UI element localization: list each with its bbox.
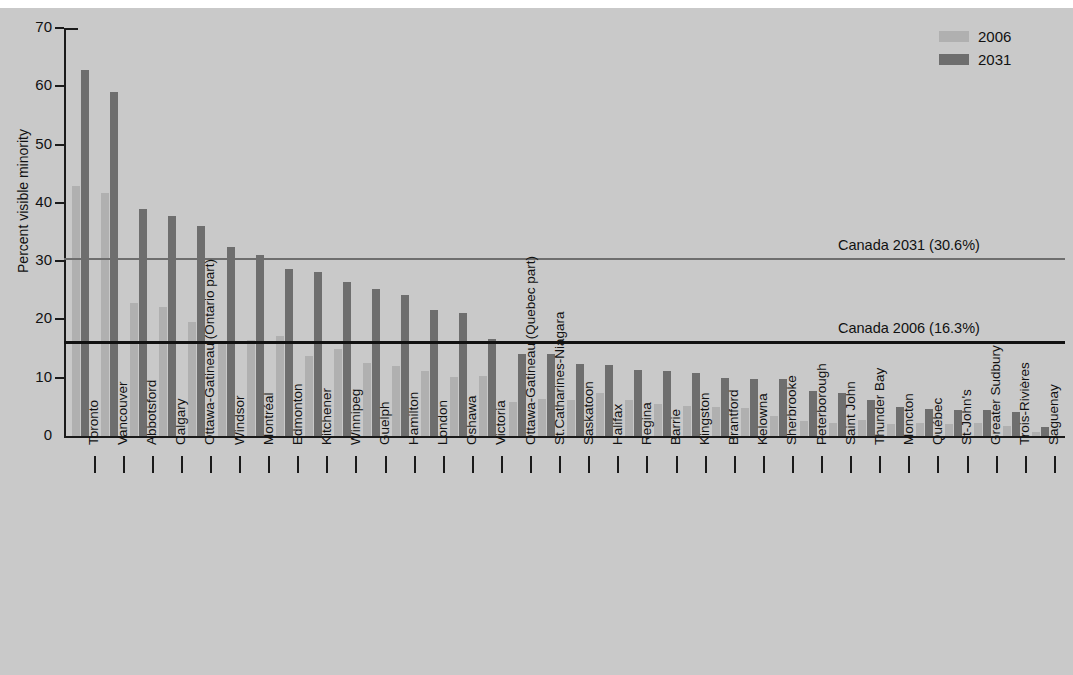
chart-figure: Percent visible minority 010203040506070… [0, 8, 1073, 675]
bar-2006 [363, 363, 371, 436]
category-label: Calgary [173, 398, 188, 445]
legend-swatch-2031-icon [939, 54, 969, 65]
category-label: Abbotsford [144, 380, 159, 445]
y-tick-70 [55, 27, 64, 29]
category-label: Edmonton [290, 383, 305, 445]
category-label: Peterborough [814, 363, 829, 445]
legend-swatch-2006-icon [939, 31, 969, 42]
bar-group [276, 28, 294, 436]
y-tick-10 [55, 377, 64, 379]
category-label: Ottawa-Gatineau (Quebec part) [523, 256, 538, 445]
category-label: Victoria [493, 400, 508, 445]
bar-group [247, 28, 265, 436]
category-label: Kingston [697, 392, 712, 445]
bar-group [218, 28, 236, 436]
category-label: Montréal [261, 392, 276, 445]
bar-group [945, 28, 963, 436]
category-label: Sherbrooke [784, 375, 799, 445]
chart-legend: 2006 2031 [939, 26, 1059, 72]
bar-group [305, 28, 323, 436]
category-label: Barrie [668, 409, 683, 445]
bar-2006 [101, 193, 109, 436]
bar-2031 [81, 70, 89, 436]
bar-2006 [130, 303, 138, 436]
bar-2006 [683, 406, 691, 436]
bar-2006 [945, 424, 953, 436]
bar-group [741, 28, 759, 436]
bar-group [334, 28, 352, 436]
category-label: Kitchener [319, 388, 334, 445]
category-label: Ottawa-Gatineau (Ontario part) [202, 259, 217, 445]
legend-label-2031: 2031 [978, 51, 1011, 68]
category-label: Trois-Rivières [1017, 362, 1032, 445]
bar-group [712, 28, 730, 436]
category-labels: TorontoVancouverAbbotsfordCalgaryOttawa-… [0, 445, 1073, 675]
category-label: Saguenay [1046, 384, 1061, 445]
category-label: Vancouver [115, 381, 130, 445]
bar-group [159, 28, 177, 436]
bar-2006 [712, 407, 720, 436]
legend-item-2006: 2006 [939, 26, 1059, 46]
y-tick-30 [55, 260, 64, 262]
category-label: Guelph [377, 401, 392, 445]
category-label: Halifax [610, 404, 625, 445]
bar-2006 [276, 336, 284, 436]
bar-group [567, 28, 585, 436]
bar-group [887, 28, 905, 436]
bar-2006 [479, 376, 487, 436]
category-label: Greater Sudbury [988, 345, 1003, 445]
category-label: Windsor [232, 395, 247, 445]
category-label: Hamilton [406, 392, 421, 445]
bar-group [683, 28, 701, 436]
y-tick-50 [55, 144, 64, 146]
bar-group [1032, 28, 1050, 436]
bar-2006 [1032, 432, 1040, 436]
bar-2006 [974, 423, 982, 436]
category-label: Québec [930, 398, 945, 445]
bar-2006 [159, 307, 167, 436]
category-label: Toronto [86, 400, 101, 445]
category-label: Oshawa [464, 395, 479, 445]
bar-2006 [392, 366, 400, 436]
category-label: St.Catharines-Niagara [552, 311, 567, 445]
bar-2006 [800, 421, 808, 436]
bar-2006 [741, 408, 749, 436]
bar-group [916, 28, 934, 436]
bar-group [450, 28, 468, 436]
y-axis-title: Percent visible minority [15, 86, 31, 316]
bar-2006 [421, 371, 429, 436]
bar-2006 [858, 420, 866, 436]
bar-2006 [509, 402, 517, 436]
bar-group [421, 28, 439, 436]
bar-2006 [829, 423, 837, 436]
y-tick-label-0: 0 [20, 426, 52, 443]
category-label: Regina [639, 402, 654, 445]
bar-2006 [334, 349, 342, 436]
category-label: St-John's [959, 389, 974, 445]
bar-2006 [72, 186, 80, 436]
category-label: Kelowna [755, 393, 770, 445]
y-tick-label-70: 70 [20, 18, 52, 35]
bar-2006 [567, 400, 575, 436]
legend-item-2031: 2031 [939, 49, 1059, 69]
bar-group [829, 28, 847, 436]
bar-2006 [538, 399, 546, 436]
bar-group [654, 28, 672, 436]
category-label: Winnipeg [348, 389, 363, 445]
bar-2006 [450, 377, 458, 436]
reference-label-2006: Canada 2006 (16.3%) [838, 320, 980, 336]
bar-group [363, 28, 381, 436]
category-label: Saint John [843, 381, 858, 445]
bar-2006 [1003, 426, 1011, 436]
bar-2006 [596, 393, 604, 436]
bar-group [72, 28, 90, 436]
bar-group [596, 28, 614, 436]
y-tick-60 [55, 85, 64, 87]
bar-2006 [218, 343, 226, 436]
category-label: Brantford [726, 389, 741, 445]
category-label: London [435, 400, 450, 445]
bar-2006 [188, 322, 196, 436]
bar-2006 [770, 416, 778, 436]
legend-label-2006: 2006 [978, 28, 1011, 45]
bar-group [130, 28, 148, 436]
